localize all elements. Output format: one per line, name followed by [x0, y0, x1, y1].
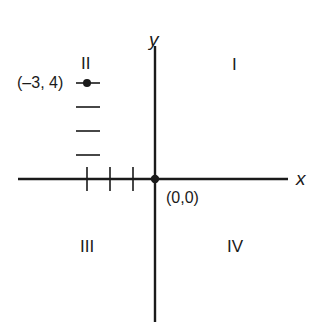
origin-marker — [151, 175, 159, 183]
quadrant-3-label: III — [80, 238, 94, 255]
axes-graphic — [0, 0, 318, 328]
quadrant-4-label: IV — [227, 238, 243, 255]
x-axis-label: x — [296, 169, 306, 188]
point-label: (–3, 4) — [17, 75, 63, 91]
quadrant-1-label: I — [232, 56, 237, 73]
coordinate-plane: y x (0,0) (–3, 4) I II III IV — [0, 0, 318, 328]
y-axis-label: y — [149, 30, 159, 49]
origin-label: (0,0) — [166, 190, 199, 206]
quadrant-2-label: II — [81, 55, 90, 72]
point-marker — [83, 79, 91, 87]
